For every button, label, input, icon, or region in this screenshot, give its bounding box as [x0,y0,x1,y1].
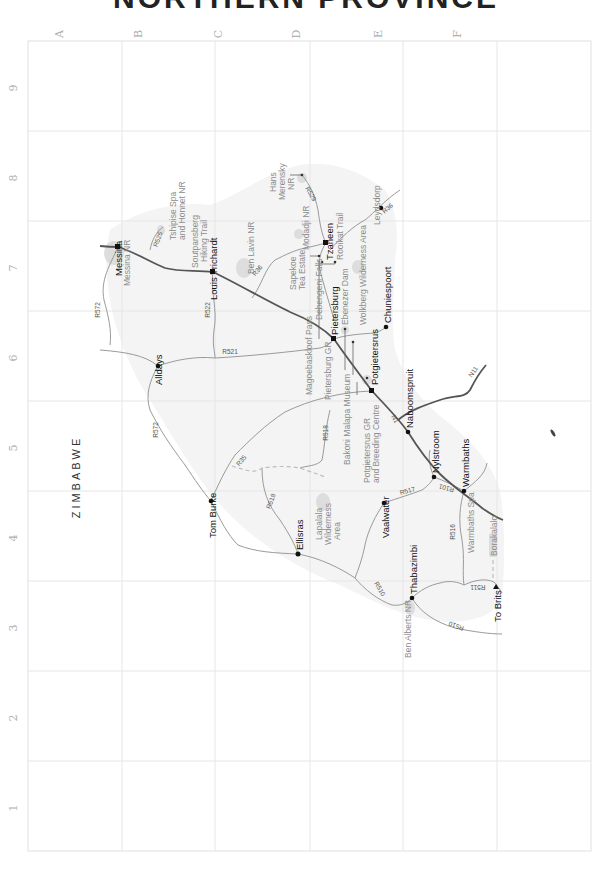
road-label-r518-north: R518 [322,425,329,441]
label-rooikat: Rooikat Trail [335,213,345,260]
label-ellisras: Ellisras [294,519,305,550]
label-lapalala-3: Area [332,522,342,540]
poi-dot-hans-merensky[interactable] [301,174,304,177]
label-borakalalo: Borakalalo [489,516,499,556]
row-label-7: 7 [7,265,20,272]
column-labels: A B C D E F [53,29,464,39]
row-label-2: 2 [7,715,20,722]
poi-dot-potgietersrus-gr[interactable] [366,377,369,380]
poi-dot-ebenezer[interactable] [344,328,347,331]
label-tom-burke: Tom Burke [207,493,218,538]
label-ben-alberts: Ben Alberts NR [403,600,413,658]
label-modadji: Modadji NR [301,206,311,250]
label-to-brits: To Brits [492,590,503,622]
town-dot-pietersburg[interactable] [331,336,336,341]
label-magoebaskloof: Magoebaskloof Pass [304,316,314,395]
row-label-3: 3 [7,625,20,632]
label-pietersburg-gr: Pietersburg GR [323,341,333,400]
label-tshipise-2: and Honnet NR [177,181,187,240]
row-label-8: 8 [7,175,20,182]
label-pietersburg: Pietersburg [329,286,340,335]
row-label-1: 1 [7,805,20,812]
label-warmbaths-spa: Warmbaths Spa [466,492,476,553]
row-label-5: 5 [7,445,20,452]
col-label-d: D [290,29,303,38]
label-potg-gr-2: and Breeding Centre [371,404,381,483]
label-messina-nr: Messina NR [122,240,132,286]
label-chuniespoort: Chuniespoort [382,266,393,323]
road-label-r572-north: R572 [94,302,101,318]
label-sapekoe-2: Tea Estate [297,250,307,290]
label-ebenezer: Ebenezer Dam [340,268,350,325]
town-dot-thabazimbi[interactable] [410,596,415,601]
label-ben-lavin: Ben Lavin NR [246,222,256,274]
label-nylstroom: Nylstroom [430,430,441,473]
label-warmbaths: Warmbaths [460,439,471,487]
label-hans-3: NR [286,178,296,190]
map-canvas: NORTHERN PROVINCE A B C D E F 9 8 7 6 5 … [0,0,613,891]
road-label-r572-south: R572 [152,422,159,438]
label-wolkberg: Wolkberg Wilderness Area [358,225,368,325]
stray-mark [550,429,557,437]
col-label-a: A [53,29,66,39]
row-label-9: 9 [7,85,20,92]
road-label-r510-south: R510 [447,620,464,632]
town-dot-naboomspruit[interactable] [406,430,411,435]
poi-dot-pietersburg-gr[interactable] [352,341,355,344]
col-label-b: B [132,30,145,38]
poi-dot-sapekoe[interactable] [318,255,321,258]
row-label-6: 6 [7,355,20,362]
label-naboomspruit: Naboomspruit [404,369,415,428]
road-label-r516: R516 [449,524,456,540]
label-bakoni: Bakoni Malapa Museum [342,374,352,465]
label-potgietersrus: Potgietersrus [369,329,380,385]
label-leydsdorp: Leydsdorp [372,185,382,225]
town-dot-nylstroom[interactable] [432,475,437,480]
map-title: NORTHERN PROVINCE [113,0,499,14]
poi-dot-rooikat[interactable] [334,261,337,264]
town-dot-chuniespoort[interactable] [384,325,389,330]
col-label-c: C [212,30,225,38]
country-label-zimbabwe: ZIMBABWE [70,436,82,519]
road-label-r511: R511 [470,584,485,591]
grid [28,41,591,851]
row-labels: 9 8 7 6 5 4 3 2 1 [7,85,20,812]
town-dot-ellisras[interactable] [296,552,301,557]
label-thabazimbi: Thabazimbi [408,545,419,594]
label-vaalwater: Vaalwater [380,496,391,538]
road-label-r522: R522 [204,302,211,318]
label-louis-trichardt: Louis Trichardt [208,237,219,300]
label-alldays: Alldays [153,354,164,385]
label-debengeni: Debengeni Falls [314,259,324,320]
col-label-f: F [451,30,464,38]
title-text: NORTHERN PROVINCE [113,0,499,14]
label-soutpansberg-2: Hiking Trail [199,220,209,262]
road-label-r521: R521 [222,348,238,355]
row-label-4: 4 [7,535,20,542]
col-label-e: E [372,30,385,38]
town-dot-potgietersrus[interactable] [369,388,374,393]
label-tzaneen: Tzaneen [324,223,335,260]
